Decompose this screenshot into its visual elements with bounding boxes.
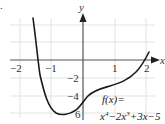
function-label-line2: x4−2x3+3x−5 [99, 110, 161, 122]
xtick-minus1: −1 [45, 62, 57, 74]
y-axis-arrow-icon [80, 13, 87, 22]
ytick-minus2: −2 [67, 72, 79, 84]
x-axis-label: x [159, 54, 165, 66]
function-graph: x y −2 −1 1 2 −2 −4 6 . f(x)= x4−2x3+3x−… [0, 0, 165, 124]
y-axis-label: y [78, 1, 84, 13]
x-axis-arrow-icon [151, 57, 160, 64]
xtick-2: 2 [144, 62, 150, 74]
xtick-minus2: −2 [10, 62, 22, 74]
function-label-line1: f(x)= [102, 93, 125, 106]
xtick-1: 1 [112, 62, 118, 74]
function-label: f(x)= x4−2x3+3x−5 [99, 93, 161, 122]
ytick-minus4: −4 [67, 90, 79, 102]
corner-dot: . [0, 0, 3, 11]
axes [10, 13, 160, 120]
